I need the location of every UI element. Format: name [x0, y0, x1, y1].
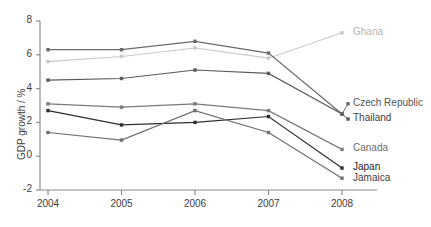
data-point-marker — [340, 166, 343, 169]
y-tick-label: 2 — [26, 115, 32, 126]
x-tick-label: 2005 — [106, 198, 138, 209]
series-line — [48, 70, 342, 114]
data-point-marker — [193, 40, 196, 43]
data-point-marker — [120, 48, 123, 51]
x-tick-label: 2008 — [326, 198, 358, 209]
x-axis-ticks — [48, 190, 342, 195]
data-point-marker — [267, 57, 270, 60]
data-point-marker — [46, 60, 49, 63]
data-point-marker — [193, 46, 196, 49]
data-point-marker — [267, 109, 270, 112]
data-point-marker — [193, 121, 196, 124]
data-point-marker — [120, 55, 123, 58]
gdp-growth-line-chart: GDP growth / % -202468 20042005200620072… — [0, 0, 431, 227]
data-point-marker — [120, 138, 123, 141]
data-point-marker — [193, 102, 196, 105]
data-point-marker — [267, 72, 270, 75]
data-point-marker — [120, 106, 123, 109]
series-label-jamaica: Jamaica — [353, 172, 390, 183]
data-point-marker — [340, 112, 343, 115]
y-tick-label: 4 — [26, 82, 32, 93]
data-point-marker — [340, 31, 343, 34]
series-label-ghana: Ghana — [353, 26, 383, 37]
data-point-marker — [340, 148, 343, 151]
data-point-marker — [193, 109, 196, 112]
data-point-marker — [267, 51, 270, 54]
x-tick-label: 2007 — [253, 198, 285, 209]
data-point-marker — [120, 123, 123, 126]
y-tick-label: -2 — [23, 183, 32, 194]
data-point-marker — [340, 177, 343, 180]
y-axis-title: GDP growth / % — [16, 88, 27, 160]
data-point-marker — [46, 109, 49, 112]
x-tick-label: 2004 — [32, 198, 64, 209]
label-leader-lines — [342, 102, 350, 121]
data-point-marker — [46, 131, 49, 134]
series-label-canada: Canada — [353, 142, 388, 153]
x-tick-label: 2006 — [179, 198, 211, 209]
data-point-marker — [267, 115, 270, 118]
data-point-marker — [267, 131, 270, 134]
series-line — [48, 111, 342, 168]
series-label-czech-republic: Czech Republic — [353, 97, 423, 108]
data-point-marker — [46, 102, 49, 105]
series-label-japan: Japan — [353, 161, 380, 172]
data-point-marker — [46, 48, 49, 51]
y-tick-label: 8 — [26, 14, 32, 25]
y-tick-label: 6 — [26, 48, 32, 59]
data-point-marker — [120, 77, 123, 80]
y-tick-label: 0 — [26, 149, 32, 160]
data-point-marker — [46, 78, 49, 81]
data-point-marker — [193, 68, 196, 71]
series-label-thailand: Thailand — [353, 112, 391, 123]
